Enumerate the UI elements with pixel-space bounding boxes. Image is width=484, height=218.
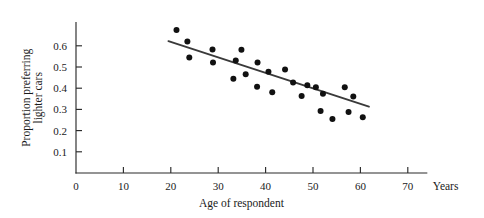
x-tick-label: 70 [402,180,414,192]
x-tick-label: 40 [260,180,272,192]
data-point [290,79,296,85]
data-point [304,82,310,88]
data-point [350,93,356,99]
data-point [282,67,288,73]
data-point [210,46,216,52]
data-point [318,108,324,114]
y-tick-label: 0.5 [53,61,67,73]
x-tick-label: 50 [308,180,320,192]
data-point [254,84,260,90]
y-tick-label: 0.3 [53,103,67,115]
y-tick-label: 0.4 [53,82,67,94]
data-point [320,91,326,97]
data-point [360,114,366,120]
data-point [329,116,335,122]
y-axis-title-line2: lighter cars [32,72,45,124]
data-point [255,60,261,66]
x-tick-label: 10 [118,180,130,192]
data-point [238,47,244,53]
scatter-plot-figure: 0.10.20.30.40.50.6010203040506070YearsAg… [0,0,484,218]
data-point [173,27,179,33]
data-point [243,71,249,77]
data-point [186,54,192,60]
y-tick-label: 0.6 [53,40,67,52]
y-tick-label: 0.2 [53,125,67,137]
x-axis-unit-label: Years [433,180,459,192]
data-point [313,84,319,90]
data-point [233,57,239,63]
data-point [269,89,275,95]
x-tick-label: 60 [355,180,367,192]
data-point [210,60,216,66]
x-axis-title: Age of respondent [199,197,285,210]
chart-canvas: 0.10.20.30.40.50.6010203040506070YearsAg… [0,0,484,218]
x-tick-label: 30 [213,180,225,192]
x-tick-label: 0 [73,180,79,192]
data-point [346,109,352,115]
data-point [265,69,271,75]
data-point [342,84,348,90]
x-tick-label: 20 [165,180,177,192]
y-tick-label: 0.1 [53,146,67,158]
data-point [230,76,236,82]
data-point [299,93,305,99]
data-point [184,39,190,45]
